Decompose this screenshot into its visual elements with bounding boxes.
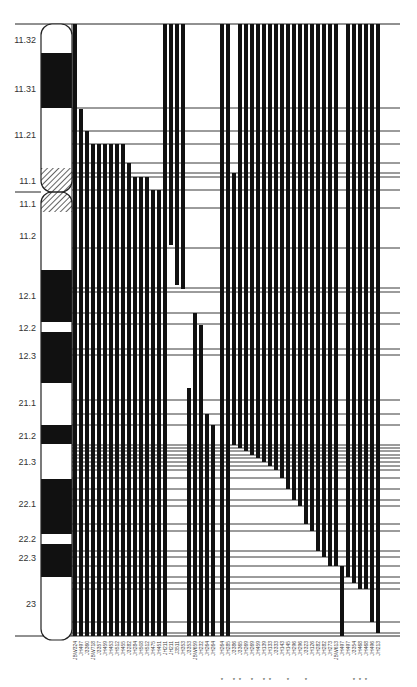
chromosome-band — [41, 479, 72, 534]
chromosome-band — [41, 332, 72, 383]
chromosome-band — [41, 270, 72, 322]
clone-bar — [262, 24, 266, 462]
clone-bar — [358, 24, 362, 589]
chromosome-band — [41, 383, 72, 425]
clone-bar — [97, 144, 101, 636]
asterisk-marker: * — [251, 677, 254, 683]
clone-bar — [304, 24, 308, 524]
clone-bar — [274, 24, 278, 470]
chromosome-band — [41, 192, 72, 212]
band-label: 21.1 — [18, 398, 36, 408]
clone-bar — [232, 173, 236, 445]
band-label: 23 — [26, 599, 36, 609]
clone-bar — [328, 24, 332, 566]
band-label: 11.1 — [19, 199, 36, 209]
chromosome-band — [41, 24, 72, 53]
clone-bar — [139, 177, 143, 636]
clone-bar — [220, 24, 224, 636]
clone-bar — [73, 24, 77, 636]
chromosome-band — [41, 577, 72, 640]
band-label: 21.2 — [18, 431, 36, 441]
chromosome-band — [41, 212, 72, 270]
band-label: 11.32 — [14, 35, 36, 45]
clone-labels: JBW324JH497J3360JBW718J3357JH459JH453JH5… — [72, 641, 381, 683]
asterisk-marker: * — [287, 677, 290, 683]
clone-bar — [151, 190, 155, 636]
asterisk-marker: * — [221, 677, 224, 683]
band-label: 11.21 — [14, 130, 36, 140]
asterisk-marker: * — [239, 677, 242, 683]
chromosome-band — [41, 425, 72, 444]
chromosome-band — [41, 544, 72, 577]
clone-bar — [79, 109, 83, 636]
chromosome-band — [41, 53, 72, 108]
chromosome-band — [41, 534, 72, 544]
clone-bar — [145, 177, 149, 636]
clone-label: JH213 — [375, 641, 381, 656]
clone-bar — [238, 24, 242, 448]
band-label: 11.2 — [19, 231, 36, 241]
clone-bar — [322, 24, 326, 557]
asterisk-marker: * — [359, 677, 362, 683]
band-label: 21.3 — [18, 457, 36, 467]
clone-bar — [91, 144, 95, 636]
clone-bar — [316, 24, 320, 551]
band-label: 12.1 — [18, 291, 36, 301]
clone-bar — [370, 24, 374, 622]
band-label: 11.1 — [19, 176, 36, 186]
clone-bar — [346, 24, 350, 577]
asterisk-marker: * — [353, 677, 356, 683]
chromosome-band — [41, 168, 72, 192]
clone-bar — [121, 144, 125, 636]
clone-bar — [193, 313, 197, 636]
clone-bar — [334, 24, 338, 566]
asterisk-marker: * — [263, 677, 266, 683]
clone-bar — [256, 24, 260, 458]
clone-bar — [280, 24, 284, 478]
clone-bar — [286, 24, 290, 489]
band-label: 12.3 — [18, 351, 36, 361]
clone-bar — [115, 144, 119, 636]
clone-bar — [199, 325, 203, 636]
chromosome-band — [41, 444, 72, 479]
clone-bar — [268, 24, 272, 466]
clone-bar — [175, 24, 179, 285]
clone-bar — [364, 24, 368, 589]
chromosome-ideogram — [41, 24, 72, 640]
clone-bar — [181, 24, 185, 289]
clone-bar — [205, 414, 209, 636]
clone-bar — [352, 24, 356, 583]
clone-bar — [244, 24, 248, 451]
band-label: 22.1 — [18, 499, 36, 509]
clone-bar — [376, 24, 380, 633]
band-label: 22.2 — [18, 534, 36, 544]
clone-bar — [103, 144, 107, 636]
asterisk-marker: * — [269, 677, 272, 683]
clone-bar — [157, 190, 161, 636]
chromosome-band — [41, 108, 72, 168]
clone-bar — [187, 388, 191, 636]
band-label: 11.31 — [14, 84, 36, 94]
chromosome-band — [41, 322, 72, 332]
clone-bar — [226, 24, 230, 636]
asterisk-marker: * — [233, 677, 236, 683]
clone-label: JH264 — [210, 641, 216, 656]
clone-bar — [310, 24, 314, 531]
clone-bar — [133, 177, 137, 636]
clone-bar — [250, 24, 254, 455]
band-labels: 11.3211.3111.2111.111.111.212.112.212.32… — [14, 35, 36, 609]
clone-bar — [85, 131, 89, 636]
clone-bars — [72, 24, 380, 636]
clone-bar — [340, 566, 344, 636]
clone-bar — [292, 24, 296, 500]
clone-bar — [109, 144, 113, 636]
band-label: 12.2 — [18, 323, 36, 333]
clone-bar — [169, 24, 173, 245]
band-label: 22.3 — [18, 553, 36, 563]
asterisk-marker: * — [365, 677, 368, 683]
deletion-map-figure: 11.3211.3111.2111.111.111.212.112.212.32… — [0, 0, 417, 687]
clone-bar — [163, 24, 167, 636]
asterisk-marker: * — [305, 677, 308, 683]
clone-bar — [127, 163, 131, 636]
clone-bar — [211, 425, 215, 636]
